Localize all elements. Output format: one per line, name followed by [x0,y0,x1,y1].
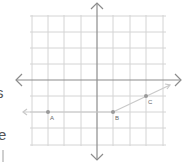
points: A B C [46,94,153,121]
point-B-label: B [115,115,119,121]
point-C [144,94,148,98]
point-A-label: A [50,115,54,121]
ray-BC [113,85,170,112]
point-A [46,110,50,114]
point-C-label: C [148,99,153,105]
point-B [111,110,115,114]
axes [16,3,181,160]
coordinate-plane: A B C [0,0,185,165]
